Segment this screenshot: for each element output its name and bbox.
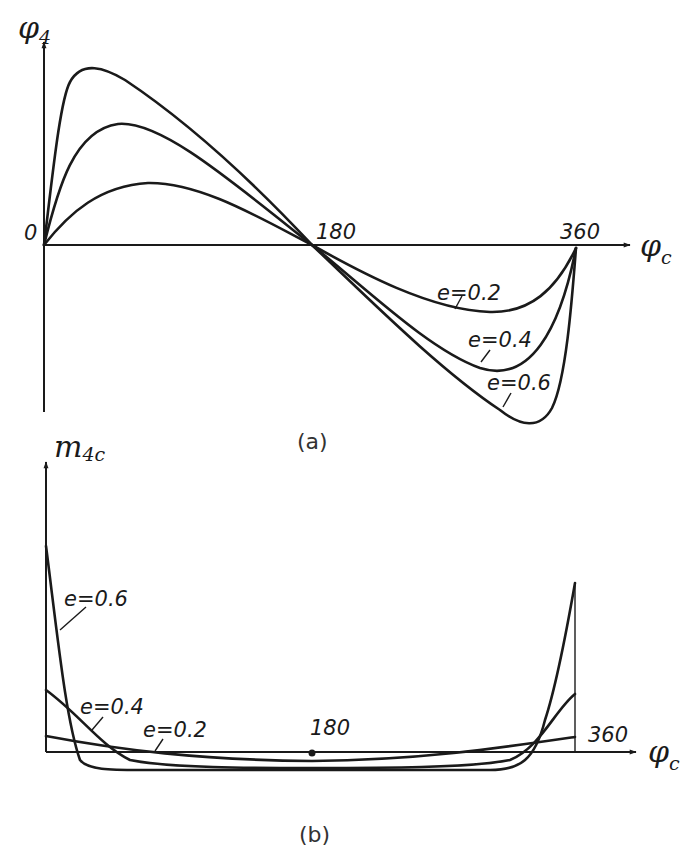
y-axis-label-a: φ4 [18, 10, 51, 48]
curve-label-b-e04: e=0.4 [80, 695, 144, 719]
curve-label-b-e02: e=0.2 [143, 718, 207, 742]
caption-a: (a) [297, 429, 328, 454]
x-axis-label-a: φc [640, 228, 672, 268]
curve-label-b-e06: e=0.6 [64, 587, 128, 611]
tick-label-180-a: 180 [316, 220, 356, 244]
tick-label-180-b: 180 [310, 716, 350, 740]
y-axis-label-b: m4c [54, 429, 106, 465]
chart-a: φ4 φc 0 180 360 e=0.2 e=0.4 e=0.6 (a) [18, 10, 672, 454]
caption-b: (b) [299, 822, 330, 847]
x-axis-label-b: φc [648, 734, 680, 774]
tick-dot-180 [309, 750, 316, 757]
tick-label-360-b: 360 [588, 723, 628, 747]
tick-label-360-a: 360 [560, 220, 600, 244]
curve-label-a-e06: e=0.6 [487, 371, 551, 395]
curve-label-a-e02: e=0.2 [437, 281, 501, 305]
tick-label-0: 0 [24, 221, 37, 245]
curve-label-a-e04: e=0.4 [468, 328, 532, 352]
chart-b: m4c φc 180 360 e=0.6 e=0.4 e=0.2 (b) [46, 429, 680, 847]
leader-a-e06 [503, 393, 511, 407]
figure-canvas: φ4 φc 0 180 360 e=0.2 e=0.4 e=0.6 (a) m4… [0, 0, 691, 866]
